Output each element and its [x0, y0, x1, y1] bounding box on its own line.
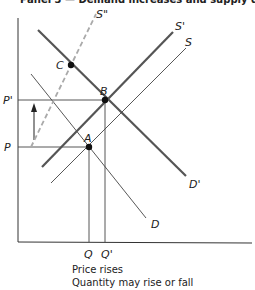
demand-curve-d-prime: [38, 30, 186, 176]
label-point-c: C: [56, 59, 64, 72]
supply-curve-s: [51, 48, 186, 183]
label-point-b: B: [100, 85, 108, 98]
caption-quantity: Quantity may rise or fall: [72, 277, 193, 288]
caption-price: Price rises: [72, 264, 123, 275]
x-axis: [18, 242, 252, 243]
supply-demand-diagram: A B C P' P Q Q' D D' S S' S": [0, 0, 255, 290]
label-q: Q: [84, 248, 93, 261]
label-s-prime: S': [175, 20, 185, 33]
point-c: [68, 62, 74, 68]
label-d: D: [151, 218, 159, 231]
label-point-a: A: [83, 132, 92, 145]
label-s-double-prime: S": [96, 8, 108, 21]
arrow-head-icon: [31, 103, 37, 112]
label-q-prime: Q': [101, 248, 113, 261]
label-p: P: [4, 141, 11, 154]
label-s: S: [185, 36, 192, 49]
label-p-prime: P': [3, 94, 13, 107]
label-d-prime: D': [189, 178, 201, 191]
